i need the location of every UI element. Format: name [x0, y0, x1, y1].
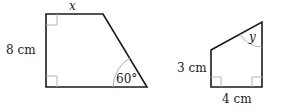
label-3cm: 3 cm: [177, 62, 207, 74]
label-y: y: [249, 31, 256, 43]
label-8cm: 8 cm: [6, 44, 36, 56]
right-angle-marker-top: [46, 14, 57, 25]
label-x: x: [69, 0, 76, 12]
right-angle-marker-bottom: [46, 76, 57, 87]
label-60-degrees: 60°: [116, 73, 137, 85]
label-4cm: 4 cm: [222, 93, 252, 105]
right-angle-marker-bottom-left: [211, 77, 221, 87]
right-angle-marker-bottom-right: [252, 77, 262, 87]
